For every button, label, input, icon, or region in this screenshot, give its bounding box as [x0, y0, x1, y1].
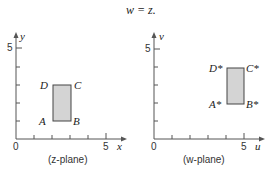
corner-d: D — [39, 79, 48, 91]
corner-a-star: A* — [208, 98, 222, 110]
y-tick-label-5: 5 — [7, 42, 13, 53]
z-plane-plot: A B C D 0 5 5 x y (z-plane) — [7, 30, 127, 165]
x-tick-label-5: 5 — [103, 141, 109, 152]
origin-label: 0 — [151, 141, 157, 152]
z-plane-caption: (z-plane) — [48, 154, 87, 165]
u-tick-label-5: 5 — [241, 141, 247, 152]
x-axis-arrow-icon — [121, 137, 127, 142]
y-axis-label: y — [19, 30, 25, 42]
x-ticks — [34, 133, 106, 139]
v-ticks — [154, 49, 160, 121]
mapping-diagram: w = z. A B C D 0 5 5 x y (z-plane) — [0, 0, 269, 169]
origin-label: 0 — [13, 141, 19, 152]
w-plane-caption: (w-plane) — [183, 154, 225, 165]
w-rectangle — [227, 68, 244, 104]
u-ticks — [172, 133, 244, 139]
v-tick-label-5: 5 — [145, 43, 151, 54]
corner-c: C — [74, 79, 82, 91]
y-axis-arrow-icon — [14, 32, 19, 38]
w-plane-plot: A* B* C* D* 0 5 5 u v (w-plane) — [145, 30, 265, 165]
corner-c-star: C* — [246, 62, 259, 74]
corner-b: B — [73, 115, 80, 127]
corner-a: A — [38, 115, 46, 127]
x-axis-label: x — [116, 140, 122, 152]
corner-d-star: D* — [208, 62, 223, 74]
v-axis-arrow-icon — [152, 32, 157, 38]
corner-b-star: B* — [246, 98, 259, 110]
u-axis-label: u — [255, 140, 261, 152]
diagram-title: w = z. — [126, 3, 156, 17]
y-ticks — [16, 48, 22, 121]
v-axis-label: v — [159, 30, 164, 42]
z-rectangle — [53, 85, 71, 121]
